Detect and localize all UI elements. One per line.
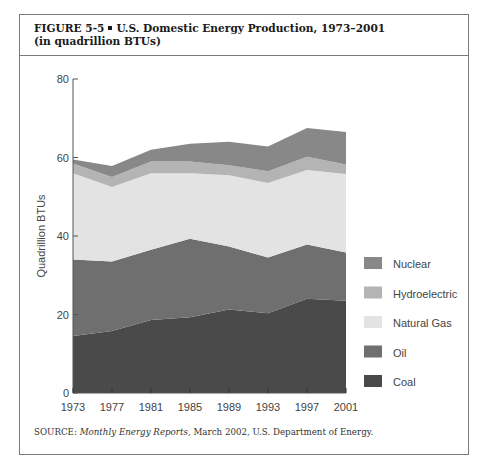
- legend-label: Oil: [393, 347, 406, 359]
- source-prefix: SOURCE:: [34, 427, 80, 437]
- source-publication: Monthly Energy Reports,: [80, 427, 191, 437]
- source-rest: March 2002, U.S. Department of Energy.: [191, 427, 374, 437]
- legend-swatch: [364, 375, 382, 387]
- x-tick-label: 1981: [139, 401, 163, 413]
- y-tick-label: 20: [57, 309, 69, 321]
- legend-label: Nuclear: [393, 258, 431, 270]
- legend-label: Hydroelectric: [393, 288, 458, 300]
- legend-swatch: [364, 346, 382, 358]
- legend-label: Natural Gas: [393, 317, 452, 329]
- stacked-area-chart: 0204060801973197719811985198919931997200…: [0, 0, 487, 476]
- x-tick-label: 1993: [256, 401, 280, 413]
- legend-item-natural-gas: Natural Gas: [364, 316, 452, 329]
- x-tick-label: 2001: [334, 401, 358, 413]
- legend-label: Coal: [393, 376, 416, 388]
- x-tick-label: 1973: [61, 401, 85, 413]
- y-tick-label: 60: [57, 152, 69, 164]
- x-tick-label: 1985: [178, 401, 202, 413]
- legend-swatch: [364, 257, 382, 269]
- y-tick-label: 80: [57, 73, 69, 85]
- legend-swatch: [364, 316, 382, 328]
- x-tick-label: 1977: [100, 401, 124, 413]
- areas-group: [73, 128, 346, 393]
- y-tick-label: 40: [57, 230, 69, 242]
- y-tick-label: 0: [63, 387, 69, 399]
- legend-item-coal: Coal: [364, 375, 416, 388]
- legend-swatch: [364, 287, 382, 299]
- legend: NuclearHydroelectricNatural GasOilCoal: [364, 257, 458, 388]
- legend-item-nuclear: Nuclear: [364, 257, 431, 270]
- source-note: SOURCE: Monthly Energy Reports, March 20…: [34, 427, 373, 437]
- x-tick-label: 1989: [217, 401, 241, 413]
- legend-item-oil: Oil: [364, 346, 406, 359]
- legend-item-hydroelectric: Hydroelectric: [364, 287, 458, 300]
- y-axis-label: Quadrillion BTUs: [35, 194, 47, 278]
- x-tick-label: 1997: [295, 401, 319, 413]
